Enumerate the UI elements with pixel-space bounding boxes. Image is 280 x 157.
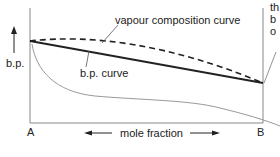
x-axis-label: mole fraction <box>120 128 183 139</box>
y-axis-label: b.p. <box>6 58 24 69</box>
grey-curve <box>32 44 280 126</box>
y-arrow-icon <box>11 26 17 34</box>
vapour-curve-label: vapour composition curve <box>115 15 240 26</box>
arrow-left-icon <box>84 131 92 136</box>
arrow-right-icon <box>212 131 220 136</box>
bp-curve-label: b.p. curve <box>80 68 128 79</box>
annotation-line-2: b <box>270 14 276 25</box>
annotation-line-3: o <box>270 26 276 37</box>
annotation-line-1: th <box>270 2 279 13</box>
vapour-leader <box>102 25 118 43</box>
x-left-label: A <box>27 127 34 138</box>
bp-leader <box>86 51 89 67</box>
x-right-label: B <box>257 127 264 138</box>
right-annotation-leader <box>264 52 276 83</box>
bp-curve <box>30 41 263 83</box>
